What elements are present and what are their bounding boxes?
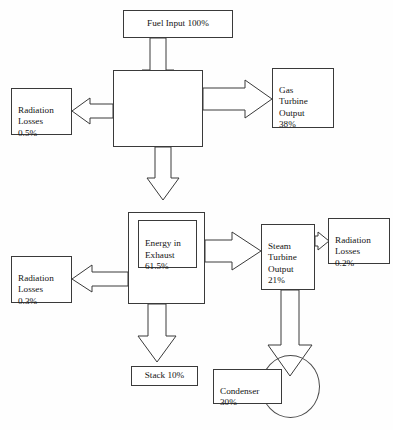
node-radiation-losses-top-label: Radiation Losses 0.5%	[18, 105, 54, 138]
node-radiation-losses-top: Radiation Losses 0.5%	[11, 88, 72, 135]
arrow-unit-to-gas-output	[203, 80, 272, 118]
node-condenser: Condenser 30%	[213, 369, 282, 404]
node-radiation-losses-mid: Radiation Losses 0.3%	[11, 256, 72, 303]
node-radiation-losses-steam: Radiation Losses 0.2%	[328, 218, 390, 264]
node-fuel-input-label: Fuel Input 100%	[147, 18, 209, 30]
node-steam-turbine-output-label: Steam Turbine Output 21%	[268, 241, 297, 286]
arrow-unit-to-radiation-top	[72, 98, 113, 124]
node-energy-in-exhaust-label: Energy in Exhaust 61.5%	[145, 238, 181, 272]
node-gas-turbine-unit	[113, 70, 203, 147]
node-gas-turbine-output: Gas Turbine Output 38%	[272, 68, 334, 128]
node-stack-label: Stack 10%	[145, 370, 185, 382]
node-energy-in-exhaust: Energy in Exhaust 61.5%	[138, 220, 197, 268]
arrow-exhaust-to-steam	[205, 232, 261, 270]
node-fuel-input: Fuel Input 100%	[123, 10, 233, 38]
node-radiation-losses-mid-label: Radiation Losses 0.3%	[18, 273, 54, 306]
node-gas-turbine-output-label: Gas Turbine Output 38%	[279, 85, 308, 130]
energy-flow-diagram: Fuel Input 100% Radiation Losses 0.5% Ga…	[0, 0, 393, 430]
arrow-unit-to-exhaust	[147, 147, 179, 200]
arrow-steam-to-radiation	[315, 232, 329, 250]
node-steam-turbine-output: Steam Turbine Output 21%	[261, 224, 315, 290]
node-stack: Stack 10%	[131, 366, 198, 386]
arrow-exhaust-to-radiation-mid	[72, 265, 128, 292]
arrow-exhaust-to-stack	[138, 304, 176, 362]
node-condenser-label: Condenser 30%	[220, 386, 259, 408]
node-radiation-losses-steam-label: Radiation Losses 0.2%	[335, 235, 371, 268]
